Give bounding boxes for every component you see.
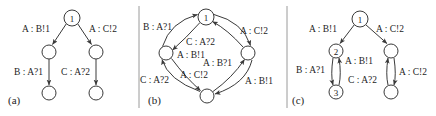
panel-c: 1 2 3 A : B!1 A : C!2 B : A?1 A : B!1 A … bbox=[292, 11, 427, 107]
edge-label-b-e3: C : A?2 bbox=[186, 37, 215, 47]
edge-label-c-e6: C : A?2 bbox=[348, 75, 377, 85]
edge-label-c-e2: A : C!2 bbox=[376, 24, 404, 34]
panel-b: 1 B : A?1 A : C!2 C : A?2 A : B!1 A : B?… bbox=[140, 9, 273, 107]
edge-label-a-e2: A : C!2 bbox=[89, 24, 117, 34]
node-label: 1 bbox=[358, 15, 363, 25]
node-a-n1: 1 bbox=[64, 10, 80, 26]
node-circle bbox=[89, 86, 103, 100]
node-b-n3 bbox=[241, 46, 255, 60]
node-circle bbox=[42, 86, 56, 100]
figure-canvas: 1 A : B!1 A : C!2 B : A?1 C : A?2 (a) bbox=[0, 0, 436, 116]
edge-c-e1 bbox=[340, 25, 355, 44]
edge-label-b-e8: A : B!1 bbox=[245, 76, 273, 86]
panel-caption-c: (c) bbox=[292, 94, 305, 107]
edge-label-b-e7: C : A?2 bbox=[140, 75, 169, 85]
edge-c-e5 bbox=[394, 58, 395, 85]
node-label: 2 bbox=[334, 47, 339, 57]
edge-label-b-e5: A : B?1 bbox=[203, 58, 232, 68]
node-circle bbox=[384, 85, 398, 99]
node-b-n4 bbox=[200, 89, 214, 103]
panel-caption-b: (b) bbox=[148, 94, 161, 107]
node-circle bbox=[159, 46, 173, 60]
node-c-n4: 3 bbox=[329, 85, 343, 99]
node-c-n2: 2 bbox=[329, 44, 343, 58]
automata-figure: 1 A : B!1 A : C!2 B : A?1 C : A?2 (a) bbox=[0, 0, 436, 116]
edge-label-a-e3: B : A?1 bbox=[14, 67, 43, 77]
edge-label-b-e2: A : C!2 bbox=[240, 26, 268, 36]
node-circle bbox=[241, 46, 255, 60]
edge-label-b-e6: A : C!2 bbox=[180, 70, 208, 80]
edge-label-a-e1: A : B!1 bbox=[22, 24, 50, 34]
node-circle bbox=[200, 89, 214, 103]
edge-b-e3 bbox=[213, 22, 244, 48]
edge-c-e4 bbox=[339, 58, 340, 85]
node-label: 3 bbox=[334, 88, 339, 98]
node-circle bbox=[89, 45, 103, 59]
node-b-n2 bbox=[159, 46, 173, 60]
edge-label-c-e4: A : B!1 bbox=[345, 56, 373, 66]
edge-label-c-e5: A : C!2 bbox=[399, 67, 427, 77]
node-b-n1: 1 bbox=[198, 9, 214, 25]
node-circle bbox=[384, 44, 398, 58]
node-a-n2 bbox=[42, 45, 56, 59]
node-c-n3 bbox=[384, 44, 398, 58]
node-c-n1: 1 bbox=[352, 11, 368, 27]
node-a-n3 bbox=[89, 45, 103, 59]
node-circle bbox=[42, 45, 56, 59]
edge-label-b-e4: A : B!1 bbox=[177, 50, 205, 60]
node-label: 1 bbox=[204, 13, 209, 23]
panel-a: 1 A : B!1 A : C!2 B : A?1 C : A?2 (a) bbox=[8, 10, 117, 107]
panel-caption-a: (a) bbox=[8, 94, 21, 107]
node-a-n4 bbox=[42, 86, 56, 100]
edge-label-b-e1: B : A?1 bbox=[143, 22, 172, 32]
node-c-n5 bbox=[384, 85, 398, 99]
edge-label-c-e1: A : B!1 bbox=[309, 24, 337, 34]
edge-a-e1 bbox=[53, 24, 67, 45]
edge-c-e3 bbox=[332, 58, 333, 85]
node-label: 1 bbox=[70, 14, 75, 24]
edge-label-c-e3: B : A?1 bbox=[296, 65, 325, 75]
edge-c-e6 bbox=[387, 58, 388, 85]
node-a-n5 bbox=[89, 86, 103, 100]
edge-label-a-e4: C : A?2 bbox=[61, 67, 90, 77]
